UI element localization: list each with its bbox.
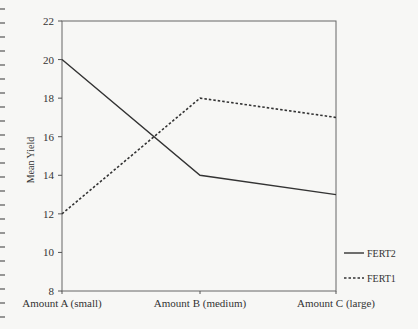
legend-label-fert1: FERT1: [367, 273, 396, 284]
series-line-fert2: [62, 60, 336, 195]
series-line-fert1: [62, 98, 336, 214]
y-tick-label: 14: [43, 169, 55, 181]
y-axis-title: Mean Yield: [25, 137, 36, 184]
line-chart: 810121416182022Amount A (small)Amount B …: [0, 0, 418, 329]
x-tick-label: Amount C (large): [297, 297, 375, 310]
y-tick-label: 18: [43, 92, 55, 104]
y-tick-label: 10: [43, 246, 55, 258]
y-tick-label: 20: [43, 54, 55, 66]
legend-label-fert2: FERT2: [367, 248, 396, 259]
y-tick-label: 16: [43, 131, 55, 143]
y-tick-label: 8: [49, 285, 55, 297]
y-tick-label: 22: [43, 15, 54, 27]
y-tick-label: 12: [43, 208, 54, 220]
plot-frame: [62, 21, 336, 291]
x-tick-label: Amount B (medium): [154, 297, 247, 310]
x-tick-label: Amount A (small): [22, 297, 102, 310]
